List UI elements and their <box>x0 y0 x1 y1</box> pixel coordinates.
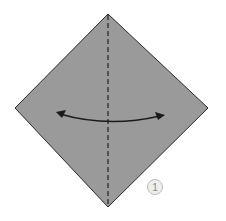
origami-diagram: 1 <box>0 0 226 221</box>
paper-square <box>15 14 208 207</box>
step-number: 1 <box>152 182 158 193</box>
